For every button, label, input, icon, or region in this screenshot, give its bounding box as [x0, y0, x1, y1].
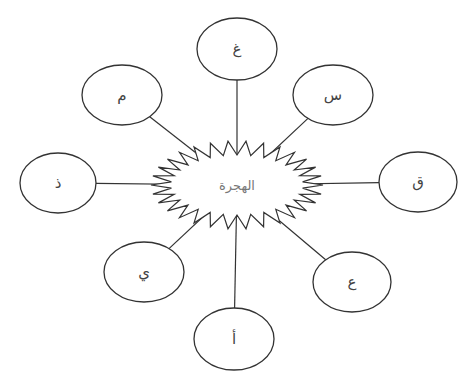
diagram-canvas: الهجرة غمسذقيعأ: [0, 0, 476, 376]
node-right: ق: [379, 152, 457, 212]
node-label: ي: [138, 263, 150, 282]
node-top-left: م: [82, 65, 162, 125]
node-bottom-right: ع: [313, 252, 391, 312]
node-label: ع: [348, 273, 357, 291]
node-top: غ: [197, 18, 277, 80]
node-label: ق: [412, 173, 424, 191]
node-top-right: س: [293, 65, 373, 125]
center-label: الهجرة: [219, 178, 255, 194]
mind-map-diagram: الهجرة غمسذقيعأ: [0, 0, 476, 376]
node-bottom: أ: [194, 308, 274, 370]
node-label: س: [324, 86, 342, 104]
node-label: م: [117, 86, 126, 104]
node-label: غ: [233, 40, 242, 58]
node-label: ذ: [55, 174, 62, 192]
node-left: ذ: [20, 153, 96, 213]
node-bottom-left: ي: [104, 242, 184, 302]
node-label: أ: [232, 329, 236, 348]
